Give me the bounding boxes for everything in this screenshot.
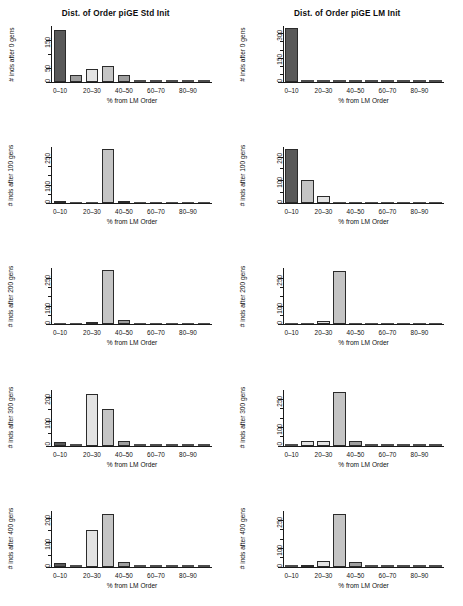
y-axis: 0100200 (43, 511, 52, 567)
y-axis-tick (280, 50, 284, 51)
y-axis-tick-label: 100 (45, 181, 51, 192)
x-axis-tick-label: 80–90 (179, 87, 197, 94)
y-axis-title-label: # inds after 300 gens (8, 387, 15, 449)
y-axis-tick (280, 408, 284, 409)
x-axis: 0–1020–3040–5060–7080–90 (284, 324, 444, 325)
y-axis-title: # inds after 0 gens (238, 26, 248, 82)
x-axis-title: % from LM Order (284, 218, 444, 225)
y-axis-tick-label: 0 (45, 442, 51, 446)
y-axis-tick-label: 100 (277, 177, 283, 188)
y-axis: 0100200 (43, 390, 52, 446)
histogram-bar (285, 149, 297, 203)
y-axis-line (51, 390, 52, 446)
y-axis-tick (48, 54, 52, 55)
y-axis: 0100200 (275, 147, 284, 203)
y-axis-title-label: # inds after 100 gens (8, 144, 15, 206)
x-axis-line (284, 203, 444, 204)
histogram-bar (317, 196, 329, 203)
x-axis-title: % from LM Order (52, 461, 212, 468)
x-axis-tick-label: 0–10 (284, 87, 298, 94)
y-axis-tick-label: 200 (45, 515, 51, 526)
y-axis-line (51, 511, 52, 567)
x-axis-tick-label: 20–30 (315, 208, 333, 215)
y-axis-tick (280, 539, 284, 540)
y-axis-title: # inds after 200 gens (238, 268, 248, 324)
y-axis-tick (280, 192, 284, 193)
x-axis-line (52, 446, 212, 447)
x-axis-tick-label: 60–70 (379, 451, 397, 458)
x-axis-tick-label: 40–50 (347, 208, 365, 215)
x-axis-tick-label: 60–70 (147, 572, 165, 579)
x-axis-tick-label: 60–70 (147, 87, 165, 94)
plot-area: 01002500–1020–3040–5060–7080–90 (284, 511, 444, 567)
y-axis-title-label: # inds after 400 gens (239, 508, 246, 570)
y-axis-tick-label: 0 (45, 564, 51, 568)
x-axis-title: % from LM Order (52, 339, 212, 346)
y-axis-title: # inds after 200 gens (6, 268, 16, 324)
x-axis: 0–1020–3040–5060–7080–90 (52, 82, 212, 83)
x-axis: 0–1020–3040–5060–7080–90 (52, 567, 212, 568)
x-axis-tick-label: 20–30 (315, 572, 333, 579)
y-axis-tick (280, 287, 284, 288)
x-axis-tick-label: 0–10 (53, 329, 67, 336)
x-axis-title: % from LM Order (284, 97, 444, 104)
x-axis-tick-label: 40–50 (115, 208, 133, 215)
x-axis-tick-label: 40–50 (347, 87, 365, 94)
y-axis-tick (280, 418, 284, 419)
x-axis-tick-label: 20–30 (83, 329, 101, 336)
x-axis-tick-label: 60–70 (147, 329, 165, 336)
x-axis-tick-label: 20–30 (83, 572, 101, 579)
x-axis-tick-label: 20–30 (315, 329, 333, 336)
y-axis-tick (48, 175, 52, 176)
y-axis-title-label: # inds after 0 gens (8, 27, 15, 81)
y-axis-title: # inds after 400 gens (6, 511, 16, 567)
chart-panel-std-init-gen-200: Dist. of Order piGE Std Init# inds after… (0, 242, 232, 363)
y-axis-tick-label: 250 (277, 517, 283, 528)
y-axis-tick-label: 0 (277, 564, 283, 568)
plot-area: 01503000–1020–3040–5060–7080–90 (284, 26, 444, 82)
y-axis-tick-label: 150 (45, 37, 51, 48)
x-axis-tick-label: 60–70 (379, 572, 397, 579)
histogram-bar (86, 530, 98, 567)
y-axis-tick-label: 300 (277, 30, 283, 41)
y-axis-tick (48, 296, 52, 297)
plot-area: 01002500–1020–3040–5060–7080–90 (284, 390, 444, 446)
x-axis-title: % from LM Order (52, 582, 212, 589)
y-axis-tick (48, 530, 52, 531)
histogram-bar (54, 30, 66, 82)
y-axis-tick (280, 66, 284, 67)
y-axis-tick (280, 315, 284, 316)
x-axis-tick-label: 60–70 (147, 208, 165, 215)
histogram-bar (301, 180, 313, 203)
histogram-bar (70, 75, 82, 82)
x-axis-tick-label: 80–90 (411, 572, 429, 579)
y-axis-tick-label: 250 (45, 153, 51, 164)
y-axis-title: # inds after 100 gens (238, 147, 248, 203)
y-axis-tick-label: 200 (277, 153, 283, 164)
histogram-bar (86, 69, 98, 82)
x-axis-line (52, 203, 212, 204)
y-axis-tick (48, 555, 52, 556)
y-axis-tick (48, 433, 52, 434)
x-axis-tick-label: 40–50 (115, 87, 133, 94)
y-axis-tick (48, 315, 52, 316)
x-axis-tick-label: 60–70 (379, 87, 397, 94)
y-axis-tick-label: 150 (277, 54, 283, 65)
y-axis-title: # inds after 300 gens (238, 390, 248, 446)
x-axis-tick-label: 0–10 (53, 87, 67, 94)
x-axis-tick-label: 40–50 (347, 451, 365, 458)
y-axis-tick (280, 436, 284, 437)
y-axis-tick-label: 0 (45, 79, 51, 83)
histogram-bar (333, 271, 345, 325)
x-axis-line (52, 82, 212, 83)
chart-panel-lm-init-gen-300: Dist. of Order piGE LM Init# inds after … (232, 364, 463, 485)
x-axis-title: % from LM Order (52, 218, 212, 225)
y-axis-tick-label: 0 (45, 321, 51, 325)
x-axis-tick-label: 60–70 (379, 329, 397, 336)
x-axis-tick-label: 0–10 (53, 451, 67, 458)
y-axis-tick (280, 41, 284, 42)
x-axis: 0–1020–3040–5060–7080–90 (52, 446, 212, 447)
x-axis-tick-label: 0–10 (53, 572, 67, 579)
x-axis-tick-label: 80–90 (179, 329, 197, 336)
chart-panel-std-init-gen-100: Dist. of Order piGE Std Init# inds after… (0, 121, 232, 242)
